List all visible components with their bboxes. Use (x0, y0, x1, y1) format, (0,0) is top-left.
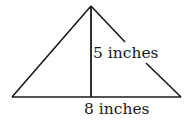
triangle-diagram: 5 inches 8 inches (0, 0, 192, 120)
base-label: 8 inches (84, 100, 150, 118)
triangle-right-side-lower (146, 63, 181, 97)
triangle-left-side (12, 6, 91, 97)
triangle-right-side-upper (91, 6, 125, 42)
height-label: 5 inches (93, 44, 159, 62)
